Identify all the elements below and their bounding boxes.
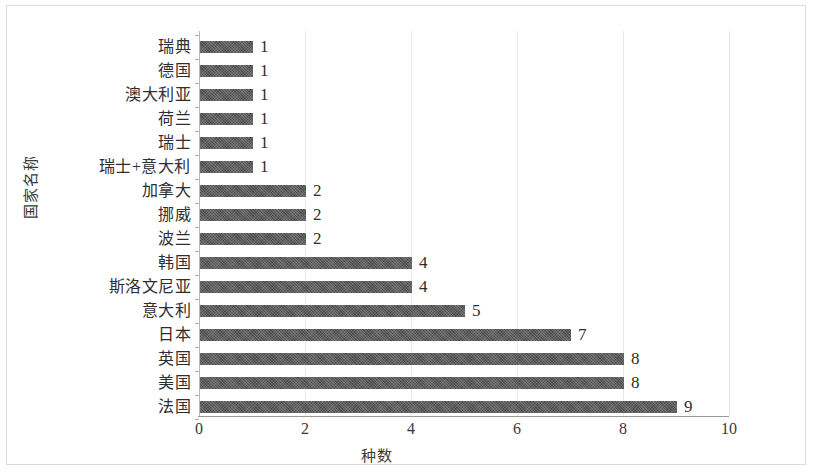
bar[interactable]	[200, 353, 624, 365]
y-axis-tick	[195, 59, 199, 60]
bar-row: 波兰2	[199, 227, 729, 251]
bar-row: 瑞典1	[199, 35, 729, 59]
y-axis-tick	[195, 395, 199, 396]
bar[interactable]	[200, 377, 624, 389]
bar-value-label: 1	[260, 35, 269, 59]
y-axis-tick	[195, 107, 199, 108]
category-label: 瑞士+意大利	[99, 155, 191, 179]
x-axis-line	[198, 416, 729, 417]
bar-row: 日本7	[199, 323, 729, 347]
plot-area: 瑞典1德国1澳大利亚1荷兰1瑞士1瑞士+意大利1加拿大2挪威2波兰2韩国4斯洛文…	[199, 31, 729, 416]
bar[interactable]	[200, 209, 306, 221]
bar-row: 挪威2	[199, 203, 729, 227]
bar-value-label: 7	[578, 323, 587, 347]
chart-container: 国家名称 瑞典1德国1澳大利亚1荷兰1瑞士1瑞士+意大利1加拿大2挪威2波兰2韩…	[6, 5, 806, 465]
bar-value-label: 8	[631, 347, 640, 371]
y-axis-tick	[195, 203, 199, 204]
bar[interactable]	[200, 257, 412, 269]
bar[interactable]	[200, 137, 253, 149]
y-axis-tick	[195, 251, 199, 252]
bar-value-label: 2	[313, 203, 322, 227]
bar[interactable]	[200, 89, 253, 101]
x-axis-tick-label: 2	[285, 420, 325, 438]
x-axis-title: 种数	[7, 444, 747, 465]
bar[interactable]	[200, 401, 677, 413]
bar-value-label: 4	[419, 275, 428, 299]
category-label: 法国	[158, 395, 191, 419]
bar-row: 英国8	[199, 347, 729, 371]
bar[interactable]	[200, 41, 253, 53]
bar-row: 瑞士1	[199, 131, 729, 155]
bar-row: 意大利5	[199, 299, 729, 323]
bar-value-label: 8	[631, 371, 640, 395]
bar-row: 韩国4	[199, 251, 729, 275]
bar-value-label: 5	[472, 299, 481, 323]
bar-value-label: 1	[260, 107, 269, 131]
y-axis-tick	[195, 155, 199, 156]
bar[interactable]	[200, 65, 253, 77]
bar-row: 斯洛文尼亚4	[199, 275, 729, 299]
category-label: 意大利	[142, 299, 192, 323]
category-label: 韩国	[158, 251, 191, 275]
bar-row: 德国1	[199, 59, 729, 83]
bar[interactable]	[200, 305, 465, 317]
category-label: 德国	[158, 59, 191, 83]
bar-value-label: 1	[260, 131, 269, 155]
y-axis-tick	[195, 179, 199, 180]
bar[interactable]	[200, 281, 412, 293]
category-label: 加拿大	[142, 179, 192, 203]
x-axis-tick-label: 4	[391, 420, 431, 438]
bar-value-label: 1	[260, 59, 269, 83]
category-label: 澳大利亚	[125, 83, 191, 107]
bar-value-label: 1	[260, 83, 269, 107]
bar-row: 荷兰1	[199, 107, 729, 131]
bar-value-label: 1	[260, 155, 269, 179]
y-axis-tick	[195, 371, 199, 372]
bar[interactable]	[200, 329, 571, 341]
category-label: 英国	[158, 347, 191, 371]
category-label: 瑞士	[158, 131, 191, 155]
bar[interactable]	[200, 233, 306, 245]
x-axis-tick-label: 0	[179, 420, 219, 438]
x-axis-tick-label: 6	[497, 420, 537, 438]
bar-value-label: 2	[313, 179, 322, 203]
y-axis-tick	[195, 83, 199, 84]
bar-value-label: 4	[419, 251, 428, 275]
category-label: 挪威	[158, 203, 191, 227]
y-axis-tick	[195, 275, 199, 276]
y-axis-tick	[195, 299, 199, 300]
y-axis-tick	[195, 347, 199, 348]
x-axis-tick-label: 10	[709, 420, 749, 438]
bar-value-label: 2	[313, 227, 322, 251]
bar[interactable]	[200, 161, 253, 173]
category-label: 美国	[158, 371, 191, 395]
bar-row: 瑞士+意大利1	[199, 155, 729, 179]
bar-row: 美国8	[199, 371, 729, 395]
x-axis-tick-label: 8	[603, 420, 643, 438]
bar-row: 加拿大2	[199, 179, 729, 203]
bar[interactable]	[200, 185, 306, 197]
y-axis-tick	[195, 131, 199, 132]
y-axis-tick	[195, 323, 199, 324]
y-axis-tick	[195, 227, 199, 228]
y-axis-title: 国家名称	[19, 127, 40, 247]
category-label: 日本	[158, 323, 191, 347]
category-label: 斯洛文尼亚	[109, 275, 192, 299]
bar-row: 澳大利亚1	[199, 83, 729, 107]
category-label: 荷兰	[158, 107, 191, 131]
category-label: 瑞典	[158, 35, 191, 59]
category-label: 波兰	[158, 227, 191, 251]
bar[interactable]	[200, 113, 253, 125]
gridline	[729, 31, 730, 416]
y-axis-tick	[195, 35, 199, 36]
